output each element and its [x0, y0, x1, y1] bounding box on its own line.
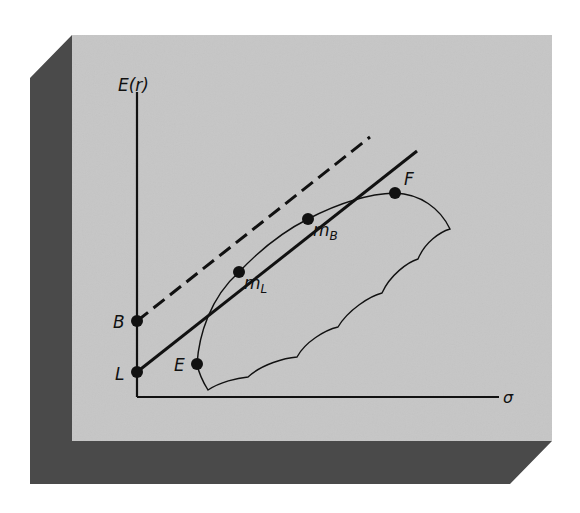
label-F: F	[404, 169, 414, 189]
label-L: L	[115, 364, 124, 384]
point-L	[131, 366, 143, 378]
point-E	[191, 358, 203, 370]
x-axis-label: σ	[503, 388, 514, 407]
label-B: B	[113, 312, 125, 332]
y-axis-label: E(r)	[118, 75, 149, 95]
point-B	[131, 315, 143, 327]
efficient-frontier-diagram: E(r) σ B L E F mL mB	[0, 0, 580, 513]
point-F	[389, 187, 401, 199]
label-E: E	[174, 355, 185, 375]
